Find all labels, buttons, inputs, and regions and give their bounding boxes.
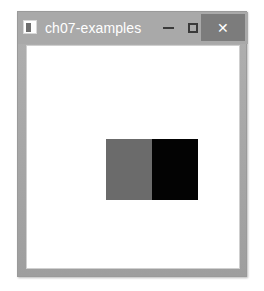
- close-icon: ✕: [217, 21, 229, 35]
- client-area: [26, 45, 240, 269]
- split-gray-black-image: [106, 139, 198, 200]
- app-image-icon: [23, 20, 37, 34]
- image-left-half-gray: [106, 139, 152, 200]
- title-bar[interactable]: ch07-examples ✕: [18, 12, 248, 44]
- application-window[interactable]: ch07-examples ✕: [17, 11, 247, 277]
- image-right-half-black: [152, 139, 198, 200]
- close-button[interactable]: ✕: [201, 14, 245, 41]
- minimize-icon: [163, 27, 174, 29]
- maximize-icon: [188, 23, 198, 33]
- app-icon-right-block: [31, 23, 36, 32]
- minimize-button[interactable]: [154, 14, 182, 41]
- window-title: ch07-examples: [45, 12, 141, 44]
